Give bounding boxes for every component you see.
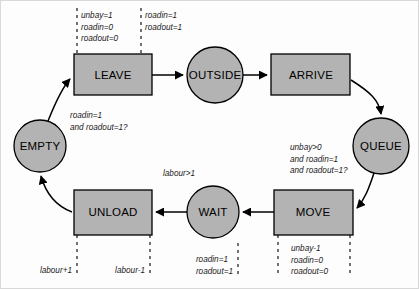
guard-queue-to-move: unbay>0 and roadin=1 and roadout=1? (290, 142, 348, 177)
guard-wait-to-unload: labour>1 (163, 168, 195, 180)
action-line: roadout=0 (81, 33, 118, 45)
action-line: labour-1 (115, 265, 145, 277)
state-node-outside[interactable] (187, 47, 243, 103)
state-node-move[interactable] (274, 190, 353, 235)
state-nodes (14, 47, 409, 238)
guard-line: unbay>0 (290, 142, 348, 154)
action-line: roadin=0 (291, 255, 328, 267)
guard-line: and roadin=1 (290, 154, 348, 166)
state-node-unload[interactable] (74, 190, 152, 235)
action-leave-exit: roadin=1 roadout=1 (145, 10, 182, 33)
action-unload-exit: labour-1 (115, 265, 145, 277)
guard-empty-to-leave: roadin=1 and roadout=1? (70, 110, 128, 133)
queue-to-move-edge (357, 173, 374, 208)
guard-line: and roadout=1? (290, 165, 348, 177)
action-wait-exit: roadin=1 roadout=1 (196, 254, 233, 277)
guard-line: and roadout=1? (70, 122, 128, 134)
state-node-empty[interactable] (14, 120, 66, 172)
guard-line: roadin=1 (70, 110, 128, 122)
state-diagram-canvas: LEAVE OUTSIDE ARRIVE QUEUE MOVE WAIT UNL… (0, 0, 419, 289)
empty-to-leave-edge (48, 79, 70, 121)
arrive-to-queue-edge (351, 80, 381, 114)
action-line: roadout=0 (291, 266, 328, 278)
action-line: roadin=1 (196, 254, 233, 266)
action-move: unbay-1 roadin=0 roadout=0 (291, 243, 328, 278)
state-node-queue[interactable] (353, 118, 409, 174)
action-line: roadin=1 (145, 10, 182, 22)
action-leave-entry: unbay=1 roadin=0 roadout=0 (81, 10, 118, 45)
action-line: roadout=1 (145, 22, 182, 34)
diagram-vector-layer (0, 0, 419, 289)
action-unload-entry: labour+1 (40, 265, 72, 277)
action-line: unbay-1 (291, 243, 328, 255)
guard-line: labour>1 (163, 168, 195, 180)
state-node-leave[interactable] (74, 54, 152, 95)
state-node-arrive[interactable] (271, 54, 350, 95)
action-line: unbay=1 (81, 10, 118, 22)
action-line: labour+1 (40, 265, 72, 277)
action-line: roadin=0 (81, 22, 118, 34)
action-line: roadout=1 (196, 266, 233, 278)
unload-to-empty-edge (41, 176, 72, 212)
state-node-wait[interactable] (187, 186, 239, 238)
